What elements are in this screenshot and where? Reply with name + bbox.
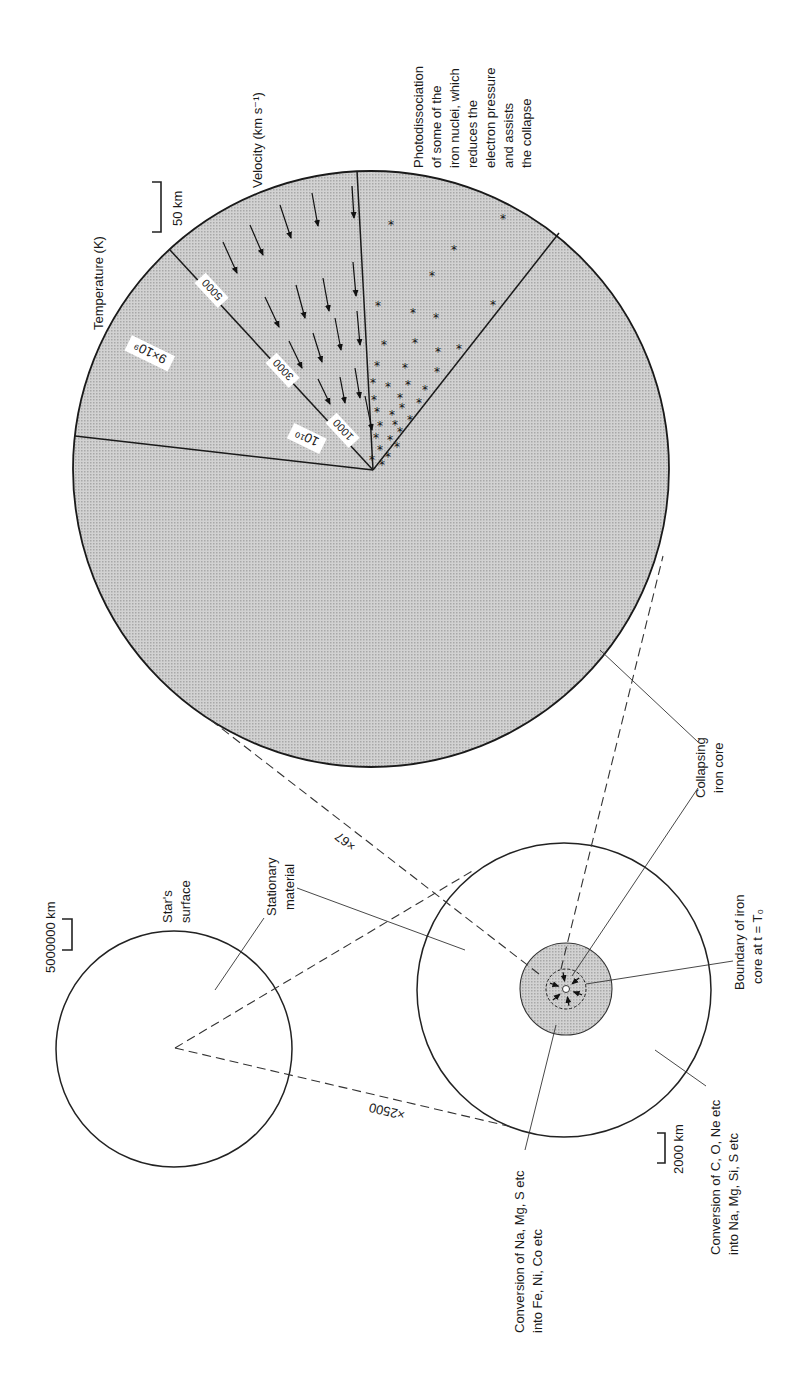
photodissociation-line: iron nuclei, which bbox=[447, 68, 462, 168]
photodissociation-star-icon: * bbox=[407, 413, 413, 427]
photodissociation-star-icon: * bbox=[369, 453, 375, 467]
label-line: surface bbox=[178, 880, 193, 923]
photodissociation-star-icon: * bbox=[377, 443, 383, 457]
photodissociation-line: the collapse bbox=[519, 99, 534, 168]
photodissociation-line: and assists bbox=[501, 102, 516, 168]
star-surface-circle bbox=[56, 931, 292, 1167]
scale-bar-label: 5000000 km bbox=[43, 901, 58, 973]
photodissociation-star-icon: * bbox=[387, 433, 393, 447]
label-line: material bbox=[282, 864, 297, 910]
photodissociation-star-icon: * bbox=[379, 458, 385, 472]
collapsing-core-circle bbox=[73, 171, 669, 767]
photodissociation-star-icon: * bbox=[388, 218, 394, 232]
photodissociation-star-icon: * bbox=[375, 299, 381, 313]
photodissociation-star-icon: * bbox=[416, 396, 422, 410]
magnification-core-to-collapse: ×67 bbox=[332, 829, 359, 854]
photodissociation-star-icon: * bbox=[434, 365, 440, 379]
core-center bbox=[563, 986, 570, 993]
label-line: Collapsing bbox=[693, 737, 708, 798]
photodissociation-star-icon: * bbox=[405, 378, 411, 392]
scale-bar-50km: 50 km bbox=[152, 182, 185, 232]
photodissociation-star-icon: * bbox=[397, 425, 403, 439]
photodissociation-star-icon: * bbox=[381, 338, 387, 352]
outer-conversion-label: Conversion of C, O, Ne etc into Na, Mg, … bbox=[708, 1099, 741, 1255]
inner-conversion-label: Conversion of Na, Mg, S etc into Fe, Ni,… bbox=[512, 1170, 545, 1333]
scale-bar-2000km: 2000 km bbox=[657, 1124, 686, 1174]
label-line: into Na, Mg, Si, S etc bbox=[726, 1132, 741, 1255]
star-to-core-lower bbox=[175, 1048, 512, 1127]
label-line: core at t = T₀ bbox=[750, 909, 765, 984]
label-line: iron core bbox=[711, 742, 726, 793]
photodissociation-line: of some of the bbox=[429, 86, 444, 168]
photodissociation-star-icon: * bbox=[399, 401, 405, 415]
collapsing-core-leader-upper bbox=[600, 650, 698, 742]
photodissociation-star-icon: * bbox=[394, 440, 400, 454]
collapsing-core-view: ************************************ 9×1… bbox=[73, 171, 669, 767]
boundary-label: Boundary of iron core at t = T₀ bbox=[732, 895, 765, 990]
photodissociation-star-icon: * bbox=[422, 383, 428, 397]
label-line: Conversion of Na, Mg, S etc bbox=[512, 1170, 527, 1333]
label-line: Conversion of C, O, Ne etc bbox=[708, 1099, 723, 1255]
label-line: Star's bbox=[160, 890, 175, 923]
photodissociation-star-icon: * bbox=[402, 361, 408, 375]
label-line: Stationary bbox=[264, 857, 279, 916]
scale-bar-label: 2000 km bbox=[671, 1124, 686, 1174]
temperature-title: Temperature (K) bbox=[91, 236, 106, 330]
label-line: into Fe, Ni, Co etc bbox=[530, 1228, 545, 1333]
photodissociation-star-icon: * bbox=[410, 306, 416, 320]
photodissociation-star-icon: * bbox=[374, 359, 380, 373]
photodissociation-star-icon: * bbox=[374, 405, 380, 419]
photodissociation-star-icon: * bbox=[433, 311, 439, 325]
scale-bar-5000000km: 5000000 km bbox=[43, 901, 72, 973]
inner-conversion-leader bbox=[525, 1025, 556, 1150]
photodissociation-star-icon: * bbox=[500, 212, 506, 226]
photodissociation-star-icon: * bbox=[456, 342, 462, 356]
label-line: Boundary of iron bbox=[732, 895, 747, 990]
photodissociation-line: reduces the bbox=[465, 100, 480, 168]
photodissociation-star-icon: * bbox=[490, 298, 496, 312]
photodissociation-label: Photodissociation of some of the iron nu… bbox=[411, 66, 534, 168]
stationary-leader-star bbox=[215, 918, 264, 990]
star-surface-label: Star's surface bbox=[160, 880, 193, 923]
star-to-core-upper bbox=[175, 870, 474, 1048]
collapsing-core-label: Collapsing iron core bbox=[693, 737, 726, 798]
collapsing-core-leader-lower bbox=[572, 788, 698, 976]
photodissociation-line: Photodissociation bbox=[411, 66, 426, 168]
photodissociation-star-icon: * bbox=[451, 243, 457, 257]
magnification-star-to-core: ×2500 bbox=[368, 1100, 407, 1123]
photodissociation-star-icon: * bbox=[429, 269, 435, 283]
photodissociation-star-icon: * bbox=[385, 380, 391, 394]
stationary-leader-core bbox=[297, 888, 465, 950]
photodissociation-star-icon: * bbox=[385, 450, 391, 464]
scale-bar-label: 50 km bbox=[170, 191, 185, 226]
stationary-material-label: Stationary material bbox=[264, 857, 297, 916]
photodissociation-star-icon: * bbox=[435, 345, 441, 359]
photodissociation-star-icon: * bbox=[412, 336, 418, 350]
supernova-core-diagram: ************************************ 9×1… bbox=[0, 0, 791, 1399]
photodissociation-star-icon: * bbox=[370, 376, 376, 390]
core-view: 2000 km Boundary of iron core at t = T₀ … bbox=[417, 843, 765, 1333]
photodissociation-line: electron pressure bbox=[483, 68, 498, 168]
velocity-title: Velocity (km s⁻¹) bbox=[250, 92, 265, 188]
